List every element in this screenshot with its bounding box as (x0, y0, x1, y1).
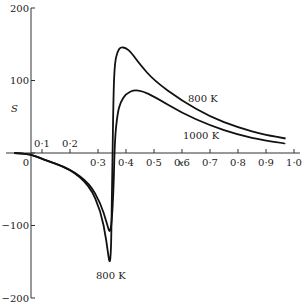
curve-label-800k-lower: 800 K (96, 271, 126, 281)
svg-text:0·9: 0·9 (258, 157, 274, 168)
y-axis-label: S (11, 104, 18, 114)
svg-text:0·3: 0·3 (90, 157, 106, 168)
svg-text:0·1: 0·1 (34, 138, 50, 149)
svg-text:−200: −200 (2, 293, 29, 304)
curve-label-800k-upper: 800 K (188, 94, 218, 104)
svg-text:0·8: 0·8 (230, 157, 246, 168)
svg-text:0·4: 0·4 (118, 157, 134, 168)
svg-text:−100: −100 (2, 220, 29, 231)
svg-text:0·5: 0·5 (146, 157, 162, 168)
x-axis-label: x (178, 158, 184, 168)
entropy-chart: 200100−100−20000·10·20·30·40·50·60·70·80… (0, 0, 306, 308)
svg-text:200: 200 (10, 3, 29, 14)
svg-text:0·7: 0·7 (202, 157, 218, 168)
svg-text:1·0: 1·0 (286, 157, 302, 168)
svg-text:100: 100 (10, 75, 29, 86)
svg-text:0·2: 0·2 (62, 138, 78, 149)
series-800k (14, 47, 285, 261)
curve-label-1000k: 1000 K (183, 131, 219, 141)
plot-area: 200100−100−20000·10·20·30·40·50·60·70·80… (0, 0, 306, 308)
svg-text:0: 0 (23, 157, 29, 168)
